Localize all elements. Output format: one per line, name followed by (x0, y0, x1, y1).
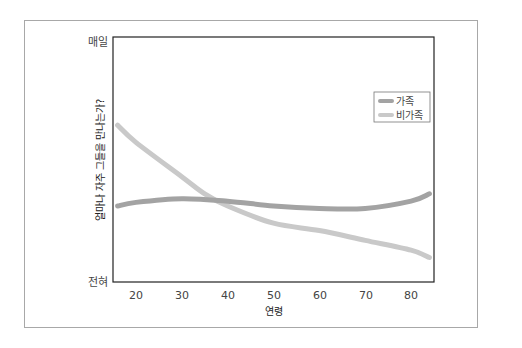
series-line-family (118, 194, 430, 209)
x-tick-label: 50 (267, 289, 281, 302)
x-tick-label: 40 (221, 289, 235, 302)
x-axis-ticks: 20 30 40 50 60 70 80 (129, 289, 418, 302)
x-tick-label: 80 (404, 289, 418, 302)
series-line-nonfamily (118, 125, 430, 257)
line-chart: 매일 전혀 얼마나 자주 그들을 만나는가? 20 30 40 50 60 70… (0, 0, 522, 348)
x-tick-label: 60 (313, 289, 327, 302)
y-tick-label-top: 매일 (88, 35, 108, 49)
legend: 가족 비가족 (374, 92, 430, 122)
y-tick-label-bottom: 전혀 (88, 276, 108, 289)
x-tick-label: 70 (359, 289, 373, 302)
x-tick-label: 20 (129, 289, 143, 302)
x-axis-title: 연령 (265, 306, 283, 317)
y-axis-title: 얼마나 자주 그들을 만나는가? (95, 99, 106, 222)
legend-label-family: 가족 (396, 96, 414, 107)
x-tick-label: 30 (175, 289, 189, 302)
legend-label-nonfamily: 비가족 (396, 110, 423, 121)
